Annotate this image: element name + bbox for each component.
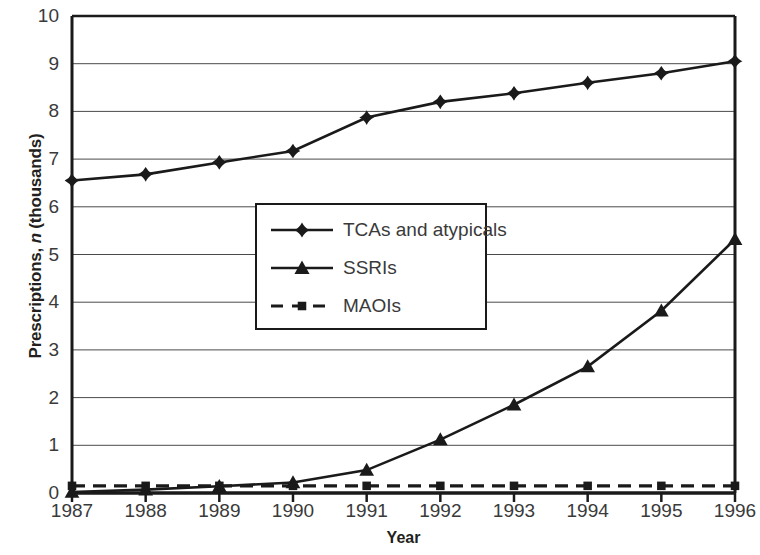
x-axis-tick-label: 1988 <box>111 500 181 522</box>
x-axis-tick-label: 1989 <box>184 500 254 522</box>
x-axis-tick-label: 1993 <box>479 500 549 522</box>
square-marker <box>298 302 307 311</box>
x-axis-tick-label: 1987 <box>37 500 107 522</box>
square-icon <box>267 293 341 319</box>
x-axis-tick-label: 1994 <box>553 500 623 522</box>
chart-legend: TCAs and atypicalsSSRIsMAOIs <box>255 203 487 330</box>
x-axis-tick-label: 1991 <box>332 500 402 522</box>
legend-item: MAOIs <box>267 291 401 321</box>
x-axis-tick-label: 1992 <box>405 500 475 522</box>
legend-label: TCAs and atypicals <box>341 219 507 241</box>
x-axis-tick-label: 1990 <box>258 500 328 522</box>
x-axis-tick-label: 1995 <box>626 500 696 522</box>
legend-item: TCAs and atypicals <box>267 215 507 245</box>
legend-item: SSRIs <box>267 253 397 283</box>
x-axis-label: Year <box>72 529 735 547</box>
legend-label: MAOIs <box>341 295 401 317</box>
x-axis-tick-label: 1996 <box>700 500 760 522</box>
diamond-marker <box>294 222 309 237</box>
legend-label: SSRIs <box>341 257 397 279</box>
diamond-icon <box>267 217 341 243</box>
triangle-icon <box>267 255 341 281</box>
